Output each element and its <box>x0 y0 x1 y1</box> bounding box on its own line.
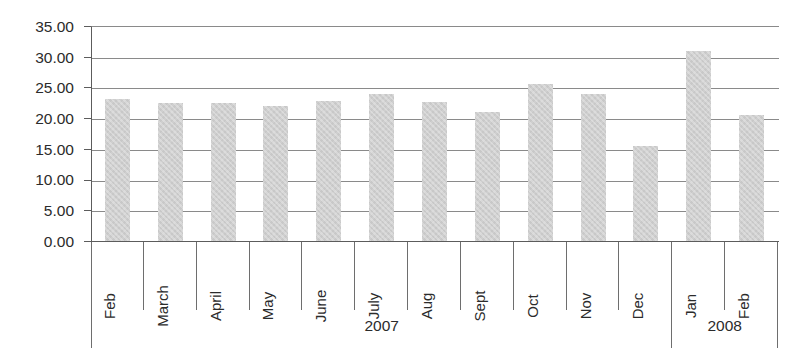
y-tick-label: 0.00 <box>44 234 74 250</box>
category-tick-sept-7: Sept <box>461 242 514 310</box>
group-axis: 20072008 <box>91 310 779 350</box>
category-tick-nov-9: Nov <box>567 242 620 310</box>
year-label: 2007 <box>364 318 398 334</box>
bar-chart: 35.00 30.00 25.00 20.00 15.00 10.00 5.00… <box>0 0 808 362</box>
year-label: 2008 <box>707 318 741 334</box>
category-tick-april-2: April <box>197 242 250 310</box>
bar <box>528 84 553 241</box>
y-tick-label: 35.00 <box>35 19 74 35</box>
y-tick-label: 5.00 <box>44 203 74 219</box>
bar <box>158 103 183 241</box>
bar <box>105 99 130 241</box>
y-tick-label: 15.00 <box>35 142 74 158</box>
category-tick-feb-0: Feb <box>91 242 144 310</box>
category-tick-june-4: June <box>302 242 355 310</box>
bar <box>263 106 288 241</box>
category-tick-dec-10: Dec <box>619 242 672 310</box>
category-tick-march-1: March <box>144 242 197 310</box>
bar <box>739 115 764 241</box>
year-group-2008: 2008 <box>672 306 778 348</box>
category-tick-oct-8: Oct <box>514 242 567 310</box>
category-tick-aug-6: Aug <box>408 242 461 310</box>
bar <box>422 102 447 241</box>
y-tick-label: 20.00 <box>35 111 74 127</box>
bar <box>633 146 658 241</box>
category-tick-jan-11: Jan <box>672 242 725 310</box>
category-tick-july-5: July <box>355 242 408 310</box>
bar <box>316 101 341 241</box>
category-tick-may-3: May <box>250 242 303 310</box>
y-tick-label: 30.00 <box>35 50 74 66</box>
bar <box>369 94 394 241</box>
bar <box>686 51 711 241</box>
y-tick-label: 25.00 <box>35 80 74 96</box>
bar <box>211 103 236 241</box>
category-axis: FebMarchAprilMayJuneJulyAugSeptOctNovDec… <box>91 242 779 310</box>
category-tick-feb-12: Feb <box>725 242 778 310</box>
bar <box>475 112 500 241</box>
y-tick-label: 10.00 <box>35 172 74 188</box>
year-group-2007: 2007 <box>91 306 672 348</box>
bars-layer <box>91 26 778 241</box>
bar <box>581 94 606 241</box>
y-axis: 35.00 30.00 25.00 20.00 15.00 10.00 5.00… <box>0 0 84 362</box>
